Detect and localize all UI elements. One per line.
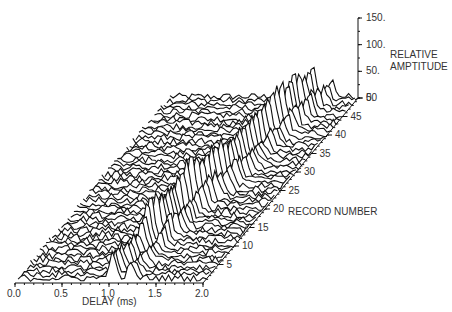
x-tick-label: 1.0 (101, 289, 115, 299)
amplitude-axis-label-line2: AMPTITUDE (390, 62, 448, 72)
record-tick-label: 10 (242, 241, 253, 251)
record-tick-label: 15 (258, 223, 269, 233)
amplitude-tick-label: 150. (366, 13, 385, 23)
record-tick-label: 30 (304, 167, 315, 177)
record-tick-label: 35 (320, 149, 331, 159)
x-tick-label: 0.0 (7, 289, 21, 299)
amplitude-tick-label: 50. (366, 66, 380, 76)
amplitude-axis-label-line1: RELATIVE (390, 50, 438, 60)
amplitude-tick-label: 0. (366, 93, 374, 103)
record-tick-label: 5 (227, 260, 233, 270)
record-axis-label: RECORD NUMBER (288, 207, 377, 217)
x-tick-label: 2.0 (195, 289, 209, 299)
amplitude-tick-label: 100. (366, 40, 385, 50)
record-tick-label: 45 (351, 112, 362, 122)
record-tick-label: 40 (335, 130, 346, 140)
record-tick-label: 20 (273, 204, 284, 214)
record-tick-label: 25 (289, 186, 300, 196)
x-tick-label: 0.5 (54, 289, 68, 299)
x-tick-label: 1.5 (148, 289, 162, 299)
